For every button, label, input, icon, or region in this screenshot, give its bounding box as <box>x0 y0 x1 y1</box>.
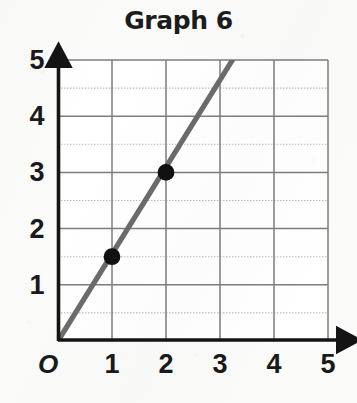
y-axis-tick-2: 2 <box>22 216 52 243</box>
x-axis-tick-5: 5 <box>313 351 343 378</box>
y-axis-tick-4: 4 <box>22 103 52 130</box>
plot-canvas <box>0 0 357 403</box>
y-axis-tick-5: 5 <box>22 47 52 74</box>
x-axis-tick-4: 4 <box>259 351 289 378</box>
graph-figure: Graph 6 <box>0 0 357 403</box>
x-axis-tick-1: 1 <box>97 351 127 378</box>
data-point <box>158 164 175 181</box>
origin-label: O <box>33 351 63 377</box>
y-axis-tick-1: 1 <box>22 272 52 299</box>
y-axis-tick-3: 3 <box>22 159 52 186</box>
x-axis-tick-3: 3 <box>205 351 235 378</box>
x-axis-tick-2: 2 <box>151 351 181 378</box>
data-point <box>104 248 121 265</box>
